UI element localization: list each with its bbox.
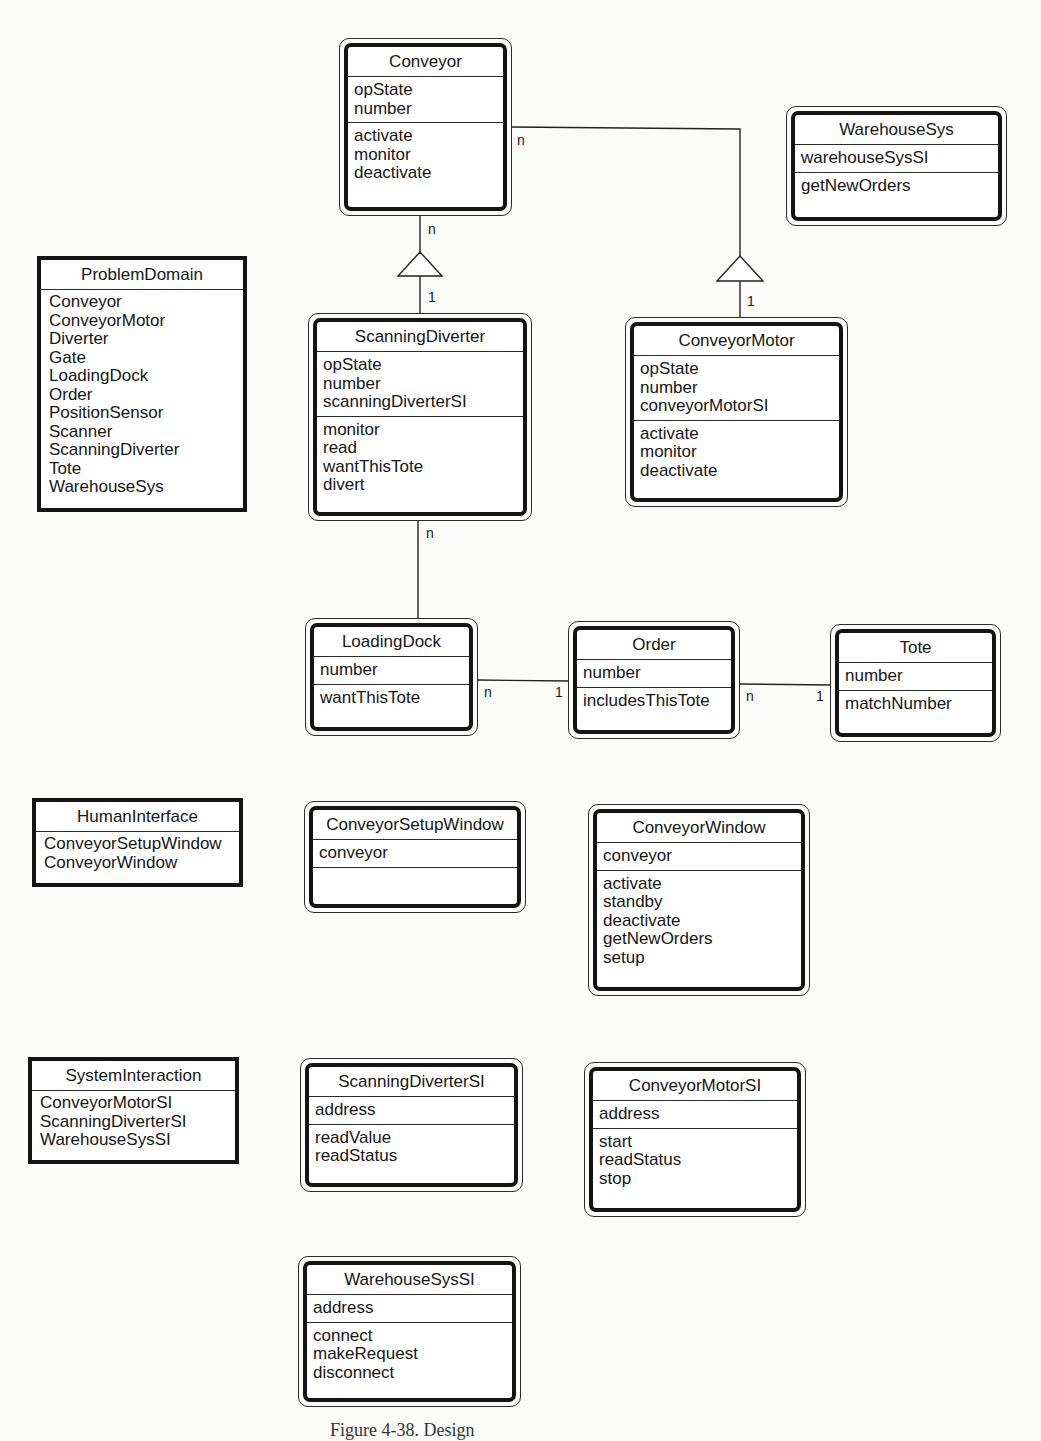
attributes-section: number <box>577 660 731 687</box>
attribute: address <box>315 1101 508 1120</box>
subject-name: SystemInteraction <box>32 1061 235 1091</box>
class-warehouse-sys[interactable]: WarehouseSys warehouseSysSI getNewOrders <box>786 106 1007 226</box>
attribute: number <box>583 664 725 683</box>
class-conveyor-window[interactable]: ConveyorWindow conveyor activate standby… <box>588 804 810 996</box>
service: readValue <box>315 1129 508 1148</box>
subject-items: Conveyor ConveyorMotor Diverter Gate Loa… <box>41 290 243 508</box>
subject-item: WarehouseSysSI <box>40 1131 227 1150</box>
multiplicity-label: n <box>428 222 436 236</box>
service: readStatus <box>599 1151 791 1170</box>
attributes-section: conveyor <box>313 840 517 867</box>
services-section: activate standby deactivate getNewOrders… <box>597 870 801 988</box>
service: getNewOrders <box>801 177 992 196</box>
multiplicity-label: n <box>484 685 492 699</box>
multiplicity-label: 1 <box>555 685 563 699</box>
subject-item: Conveyor <box>49 293 235 312</box>
service: makeRequest <box>313 1345 506 1364</box>
multiplicity-label: n <box>426 526 434 540</box>
class-loading-dock[interactable]: LoadingDock number wantThisTote <box>305 618 478 736</box>
services-section: connect makeRequest disconnect <box>307 1322 512 1399</box>
attribute: address <box>599 1105 791 1124</box>
service: wantThisTote <box>320 689 463 708</box>
class-name: ConveyorMotorSI <box>593 1071 797 1101</box>
service: getNewOrders <box>603 930 795 949</box>
attributes-section: opState number <box>348 77 503 122</box>
attribute: opState <box>354 81 497 100</box>
subject-problem-domain[interactable]: ProblemDomain Conveyor ConveyorMotor Div… <box>37 256 247 512</box>
subject-name: ProblemDomain <box>41 260 243 290</box>
subject-item: Gate <box>49 349 235 368</box>
attributes-section: address <box>307 1295 512 1322</box>
class-order[interactable]: Order number includesThisTote <box>568 621 740 739</box>
attribute: scanningDiverterSI <box>323 393 517 412</box>
service: includesThisTote <box>583 692 725 711</box>
subject-human-interface[interactable]: HumanInterface ConveyorSetupWindow Conve… <box>32 798 243 887</box>
subject-system-interaction[interactable]: SystemInteraction ConveyorMotorSI Scanni… <box>28 1057 239 1164</box>
class-tote[interactable]: Tote number matchNumber <box>830 624 1001 742</box>
attributes-section: warehouseSysSI <box>795 145 998 172</box>
service: deactivate <box>603 912 795 931</box>
subject-item: ConveyorWindow <box>44 854 231 873</box>
multiplicity-label: 1 <box>747 294 755 308</box>
subject-item: ConveyorMotorSI <box>40 1094 227 1113</box>
attribute: number <box>323 375 517 394</box>
class-conveyor-motor-si[interactable]: ConveyorMotorSI address start readStatus… <box>584 1062 806 1217</box>
service: deactivate <box>354 164 497 183</box>
subject-items: ConveyorMotorSI ScanningDiverterSI Wareh… <box>32 1091 235 1160</box>
class-conveyor-setup-window[interactable]: ConveyorSetupWindow conveyor <box>304 801 526 913</box>
attribute: number <box>320 661 463 680</box>
attributes-section: address <box>309 1097 514 1124</box>
class-conveyor-motor[interactable]: ConveyorMotor opState number conveyorMot… <box>625 317 848 507</box>
class-conveyor[interactable]: Conveyor opState number activate monitor… <box>339 38 512 216</box>
attributes-section: conveyor <box>597 843 801 870</box>
attributes-section: address <box>593 1101 797 1128</box>
attribute: number <box>354 100 497 119</box>
attributes-section: number <box>314 657 469 684</box>
services-section: start readStatus stop <box>593 1128 797 1209</box>
service: stop <box>599 1170 791 1189</box>
service: start <box>599 1133 791 1152</box>
services-section <box>313 867 517 905</box>
subject-item: ScanningDiverterSI <box>40 1113 227 1132</box>
class-name: WarehouseSysSI <box>307 1265 512 1295</box>
services-section: matchNumber <box>839 690 992 734</box>
multiplicity-label: n <box>746 689 754 703</box>
services-section: monitor read wantThisTote divert <box>317 416 523 513</box>
attributes-section: opState number scanningDiverterSI <box>317 352 523 416</box>
class-name: ConveyorMotor <box>634 326 839 356</box>
service: matchNumber <box>845 695 986 714</box>
services-section: readValue readStatus <box>309 1124 514 1184</box>
class-warehouse-sys-si[interactable]: WarehouseSysSI address connect makeReque… <box>298 1256 521 1407</box>
attributes-section: number <box>839 663 992 690</box>
service: deactivate <box>640 462 833 481</box>
service: readStatus <box>315 1147 508 1166</box>
attribute: conveyor <box>603 847 795 866</box>
services-section: includesThisTote <box>577 687 731 731</box>
class-name: Order <box>577 630 731 660</box>
subject-item: Order <box>49 386 235 405</box>
multiplicity-label: 1 <box>816 689 824 703</box>
subject-item: PositionSensor <box>49 404 235 423</box>
service: read <box>323 439 517 458</box>
service: wantThisTote <box>323 458 517 477</box>
service: standby <box>603 893 795 912</box>
class-name: Tote <box>839 633 992 663</box>
services-section: wantThisTote <box>314 684 469 728</box>
class-scanning-diverter-si[interactable]: ScanningDiverterSI address readValue rea… <box>300 1058 523 1192</box>
subject-item: ScanningDiverter <box>49 441 235 460</box>
service: divert <box>323 476 517 495</box>
service: monitor <box>323 421 517 440</box>
class-name: LoadingDock <box>314 627 469 657</box>
service: activate <box>603 875 795 894</box>
service: disconnect <box>313 1364 506 1383</box>
attribute: opState <box>640 360 833 379</box>
service: activate <box>640 425 833 444</box>
class-name: ScanningDiverterSI <box>309 1067 514 1097</box>
attribute: opState <box>323 356 517 375</box>
subject-item: ConveyorMotor <box>49 312 235 331</box>
services-section: activate monitor deactivate <box>348 122 503 207</box>
class-scanning-diverter[interactable]: ScanningDiverter opState number scanning… <box>308 313 532 521</box>
services-section: activate monitor deactivate <box>634 420 839 499</box>
service: activate <box>354 127 497 146</box>
